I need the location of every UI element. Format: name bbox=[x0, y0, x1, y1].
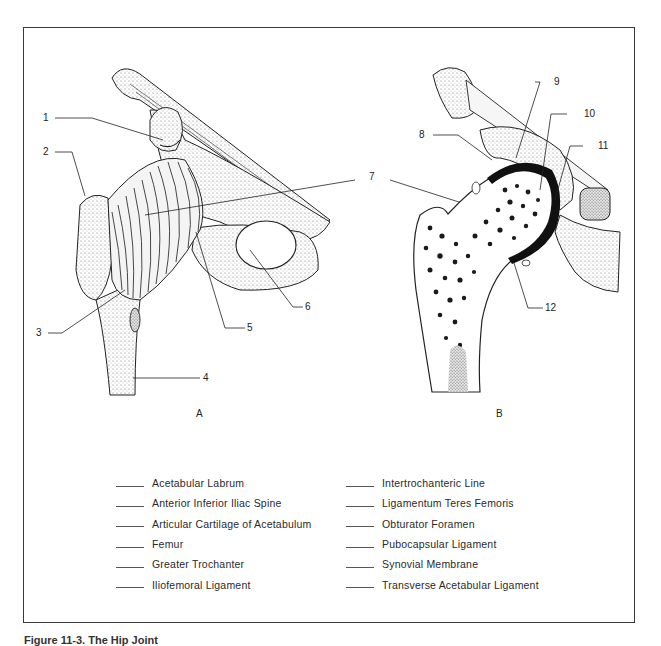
answer-blank[interactable] bbox=[116, 506, 144, 507]
legend-term: Intertrochanteric Line bbox=[382, 477, 485, 489]
callout-9: 9 bbox=[554, 77, 560, 87]
legend-item: Femur bbox=[116, 534, 312, 554]
legend-item: Greater Trochanter bbox=[116, 554, 312, 574]
answer-blank[interactable] bbox=[346, 547, 374, 548]
panel-label-a: A bbox=[196, 408, 203, 419]
legend-term: Greater Trochanter bbox=[152, 558, 244, 570]
legend-item: Anterior Inferior Iliac Spine bbox=[116, 493, 312, 513]
legend-term: Ligamentum Teres Femoris bbox=[382, 497, 514, 509]
legend-item: Ligamentum Teres Femoris bbox=[346, 493, 539, 513]
legend-term: Femur bbox=[152, 538, 183, 550]
answer-blank[interactable] bbox=[346, 506, 374, 507]
legend-term: Iliofemoral Ligament bbox=[152, 579, 251, 591]
legend-item: Iliofemoral Ligament bbox=[116, 574, 312, 594]
callout-3: 3 bbox=[36, 328, 42, 338]
answer-blank[interactable] bbox=[346, 567, 374, 568]
legend-item: Articular Cartilage of Acetabulum bbox=[116, 514, 312, 534]
legend-term: Pubocapsular Ligament bbox=[382, 538, 497, 550]
answer-blank[interactable] bbox=[116, 486, 144, 487]
legend-item: Transverse Acetabular Ligament bbox=[346, 574, 539, 594]
legend-term: Obturator Foramen bbox=[382, 518, 475, 530]
callout-8: 8 bbox=[419, 130, 425, 140]
legend-item: Pubocapsular Ligament bbox=[346, 534, 539, 554]
legend-item: Obturator Foramen bbox=[346, 514, 539, 534]
legend-item: Synovial Membrane bbox=[346, 554, 539, 574]
panel-a-drawing bbox=[76, 69, 330, 395]
legend-left-column: Acetabular Labrum Anterior Inferior Ilia… bbox=[116, 473, 312, 595]
callout-2: 2 bbox=[43, 147, 49, 157]
figure-caption: Figure 11-3. The Hip Joint bbox=[24, 634, 158, 646]
legend-right-column: Intertrochanteric Line Ligamentum Teres … bbox=[346, 473, 539, 595]
answer-blank[interactable] bbox=[346, 526, 374, 527]
callout-11: 11 bbox=[598, 141, 608, 151]
answer-blank[interactable] bbox=[116, 567, 144, 568]
callout-6: 6 bbox=[305, 302, 311, 312]
legend-term: Synovial Membrane bbox=[382, 558, 478, 570]
callout-4: 4 bbox=[203, 373, 209, 383]
answer-blank[interactable] bbox=[116, 547, 144, 548]
legend-term: Anterior Inferior Iliac Spine bbox=[152, 497, 282, 509]
callout-5: 5 bbox=[247, 323, 253, 333]
answer-blank[interactable] bbox=[346, 587, 374, 588]
legend-item: Intertrochanteric Line bbox=[346, 473, 539, 493]
callout-10: 10 bbox=[584, 109, 595, 119]
callout-7: 7 bbox=[369, 172, 375, 182]
callout-1: 1 bbox=[43, 113, 49, 123]
panel-label-b: B bbox=[496, 408, 503, 419]
answer-blank[interactable] bbox=[346, 486, 374, 487]
answer-blank[interactable] bbox=[116, 526, 144, 527]
legend-term: Articular Cartilage of Acetabulum bbox=[152, 518, 312, 530]
legend-term: Transverse Acetabular Ligament bbox=[382, 579, 539, 591]
answer-blank[interactable] bbox=[116, 587, 144, 588]
callout-12: 12 bbox=[545, 303, 556, 313]
legend-term: Acetabular Labrum bbox=[152, 477, 244, 489]
legend-item: Acetabular Labrum bbox=[116, 473, 312, 493]
